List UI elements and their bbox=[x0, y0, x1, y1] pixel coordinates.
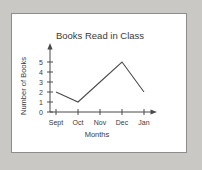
line-chart: Books Read in Class Number of Books Mont… bbox=[12, 14, 188, 154]
x-axis-title: Months bbox=[85, 130, 110, 139]
chart-panel: Books Read in Class Number of Books Mont… bbox=[11, 13, 187, 153]
y-tick-label-1: 1 bbox=[39, 99, 43, 106]
x-tick-label-sept: Sept bbox=[49, 119, 63, 127]
y-axis-title: Number of Books bbox=[19, 57, 28, 115]
x-tick-label-nov: Nov bbox=[94, 119, 107, 126]
y-tick-label-4: 4 bbox=[39, 69, 43, 76]
chart-title: Books Read in Class bbox=[56, 30, 144, 41]
y-tick-label-3: 3 bbox=[39, 79, 43, 86]
x-tick-label-oct: Oct bbox=[73, 119, 84, 126]
x-axis-tick-labels: Sept Oct Nov Dec Jan bbox=[49, 119, 150, 127]
x-tick-label-dec: Dec bbox=[116, 119, 129, 126]
x-tick-label-jan: Jan bbox=[138, 119, 149, 126]
y-axis-arrow-icon bbox=[47, 43, 52, 50]
x-axis-arrow-icon bbox=[151, 109, 158, 114]
chart-container: Books Read in Class Number of Books Mont… bbox=[12, 14, 188, 154]
y-tick-label-0: 0 bbox=[39, 109, 43, 116]
y-tick-label-5: 5 bbox=[39, 59, 43, 66]
y-tick-label-2: 2 bbox=[39, 89, 43, 96]
data-series-line bbox=[56, 62, 144, 102]
y-axis-tick-labels: 0 1 2 3 4 5 bbox=[39, 59, 43, 116]
screenshot-root: Books Read in Class Number of Books Mont… bbox=[0, 0, 202, 170]
